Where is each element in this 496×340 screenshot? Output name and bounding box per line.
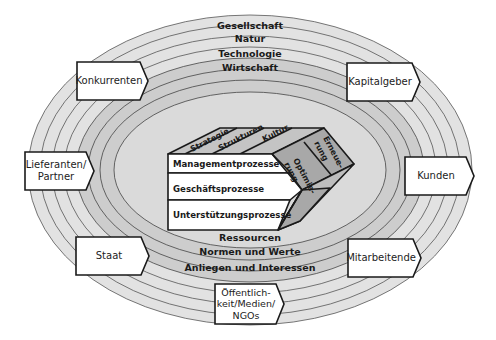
stakeholder-kapitalgeber: Kapitalgeber bbox=[346, 62, 422, 102]
issue-label-anliegen: Anliegen und Interessen bbox=[185, 262, 316, 273]
stakeholder-staat: Staat bbox=[75, 236, 151, 276]
sphere-label-wirtschaft: Wirtschaft bbox=[222, 62, 279, 73]
issue-label-ressourcen: Ressourcen bbox=[219, 232, 281, 243]
stakeholder-oeffentlichkeit: Öffentlich-keit/Medien/NGOs bbox=[214, 283, 286, 325]
sphere-label-technologie: Technologie bbox=[218, 48, 282, 59]
sphere-label-natur: Natur bbox=[235, 33, 266, 44]
process-label-unterstuetzung: Unterstützungsprozesse bbox=[173, 210, 292, 220]
stakeholder-mitarbeitende: Mitarbeitende bbox=[347, 238, 423, 278]
stakeholder-kunden: Kunden bbox=[404, 156, 476, 196]
stakeholder-konkurrenten: Konkurrenten bbox=[76, 61, 150, 101]
process-label-management: Managementprozesse bbox=[173, 159, 280, 169]
issue-label-normen: Normen und Werte bbox=[199, 246, 300, 257]
sphere-label-gesellschaft: Gesellschaft bbox=[217, 20, 283, 31]
stakeholder-lieferanten: Lieferanten/Partner bbox=[24, 151, 96, 191]
process-label-geschaeft: Geschäftsprozesse bbox=[173, 184, 264, 194]
